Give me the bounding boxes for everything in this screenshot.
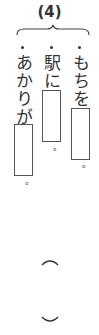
item-text-left: あかりが (13, 54, 33, 126)
period-left: 。 (25, 177, 34, 186)
item-text-middle: 駅に (41, 54, 61, 90)
item-text-right: もちを (70, 54, 90, 108)
open-paren-icon (40, 258, 60, 266)
period-middle: 。 (53, 143, 62, 152)
brace-icon (16, 24, 90, 36)
answer-box-left[interactable] (14, 124, 33, 176)
question-number: (4) (0, 3, 99, 21)
bullet-dot (78, 46, 81, 49)
bullet-dot (21, 46, 24, 49)
answer-box-middle[interactable] (42, 90, 61, 142)
close-paren-icon (40, 316, 60, 324)
answer-box-right[interactable] (71, 108, 90, 160)
bullet-dot (50, 46, 53, 49)
period-right: 。 (82, 160, 91, 169)
